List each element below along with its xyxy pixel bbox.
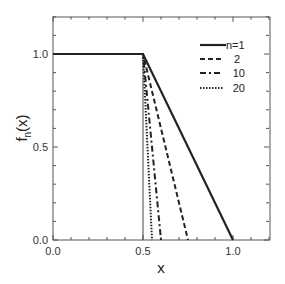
legend-label: 2 xyxy=(234,53,240,65)
series-line-n20 xyxy=(53,54,152,240)
y-axis-label-tail: (x) xyxy=(13,114,30,132)
x-axis-label: x xyxy=(157,259,165,276)
series-line-n2 xyxy=(53,54,188,240)
y-tick-labels: 0.0 0.5 1.0 xyxy=(33,48,48,246)
x-tick-label: 0.0 xyxy=(45,245,60,257)
y-tick-label: 0.5 xyxy=(33,141,48,153)
legend-label: 10 xyxy=(233,67,245,79)
y-tick-label: 0.0 xyxy=(33,234,48,246)
svg-text:fn(x): fn(x) xyxy=(13,114,33,141)
x-tick-label: 0.5 xyxy=(135,245,150,257)
legend: n=1 2 10 20 xyxy=(200,39,245,94)
x-tick-label: 1.0 xyxy=(225,245,240,257)
legend-label: 20 xyxy=(233,82,245,94)
legend-label: n=1 xyxy=(226,39,245,51)
y-tick-label: 1.0 xyxy=(33,48,48,60)
series-line-n10 xyxy=(53,54,161,240)
y-axis-label: fn(x) xyxy=(13,114,33,141)
chart: 0.0 0.5 1.0 0.0 0.5 1.0 x fn(x) n=1 2 10… xyxy=(0,0,285,284)
x-tick-labels: 0.0 0.5 1.0 xyxy=(45,245,240,257)
